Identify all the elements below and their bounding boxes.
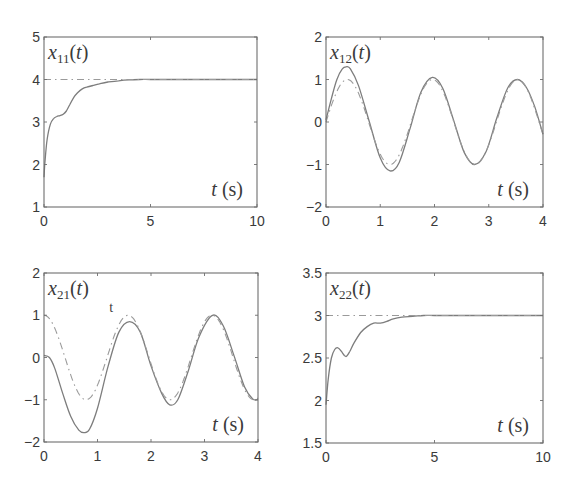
annotation-text: t: [109, 300, 113, 315]
y-tick-label: 2: [32, 265, 40, 281]
x-tick-label: 4: [539, 213, 547, 229]
y-tick-label: −2: [306, 199, 322, 215]
x-tick-label: 5: [147, 213, 155, 229]
response-curve: [44, 79, 257, 177]
x-tick-label: 0: [40, 448, 48, 464]
x-tick-label: 0: [322, 213, 330, 229]
y-tick-label: 4: [32, 72, 40, 88]
panel-label: x12(t): [329, 41, 371, 66]
x-tick-label: 10: [535, 449, 551, 465]
y-tick-label: 2.5: [303, 350, 323, 366]
reference-curve: [326, 80, 543, 165]
x-axis-label: t (s): [497, 178, 529, 201]
y-tick-label: 1: [32, 307, 40, 323]
figure: 051012345x11(t)t (s) 01234−2−1012x12(t)t…: [0, 0, 574, 488]
y-tick-label: 0: [314, 114, 322, 130]
y-tick-label: 3.5: [303, 265, 323, 281]
y-tick-label: 1.5: [303, 435, 323, 451]
y-tick-label: 2: [314, 393, 322, 409]
response-curve: [326, 315, 543, 404]
y-tick-label: −1: [24, 392, 40, 408]
y-tick-label: 3: [314, 308, 322, 324]
x-tick-label: 2: [147, 448, 155, 464]
subplot-x22: 05101.522.533.5x22(t)t (s): [303, 265, 551, 465]
reference-curve: [44, 315, 258, 399]
y-tick-label: 1: [32, 199, 40, 215]
panel-label: x21(t): [47, 277, 89, 302]
subplot-x11: 051012345x11(t)t (s): [32, 29, 265, 229]
x-tick-label: 2: [431, 213, 439, 229]
x-tick-label: 5: [431, 449, 439, 465]
x-tick-label: 1: [376, 213, 384, 229]
panel-label: x22(t): [329, 277, 371, 302]
response-curve: [326, 67, 543, 171]
x-axis-label: t (s): [212, 413, 244, 436]
y-tick-label: 2: [314, 29, 322, 45]
x-tick-label: 1: [94, 448, 102, 464]
x-tick-label: 4: [254, 448, 262, 464]
y-tick-label: −1: [306, 157, 322, 173]
panel-label: x11(t): [47, 41, 88, 66]
y-tick-label: 1: [314, 72, 322, 88]
x-tick-label: 3: [485, 213, 493, 229]
y-tick-label: 2: [32, 157, 40, 173]
x-tick-label: 0: [40, 213, 48, 229]
x-axis-label: t (s): [211, 178, 243, 201]
x-axis-label: t (s): [497, 414, 529, 437]
x-tick-label: 3: [201, 448, 209, 464]
x-tick-label: 10: [249, 213, 265, 229]
x-tick-label: 0: [322, 449, 330, 465]
y-tick-label: 3: [32, 114, 40, 130]
y-tick-label: 5: [32, 29, 40, 45]
subplot-x12: 01234−2−1012x12(t)t (s): [306, 29, 547, 229]
subplot-x21: 01234−2−1012x21(t)t (s)t: [24, 265, 262, 464]
y-tick-label: 0: [32, 350, 40, 366]
y-tick-label: −2: [24, 434, 40, 450]
